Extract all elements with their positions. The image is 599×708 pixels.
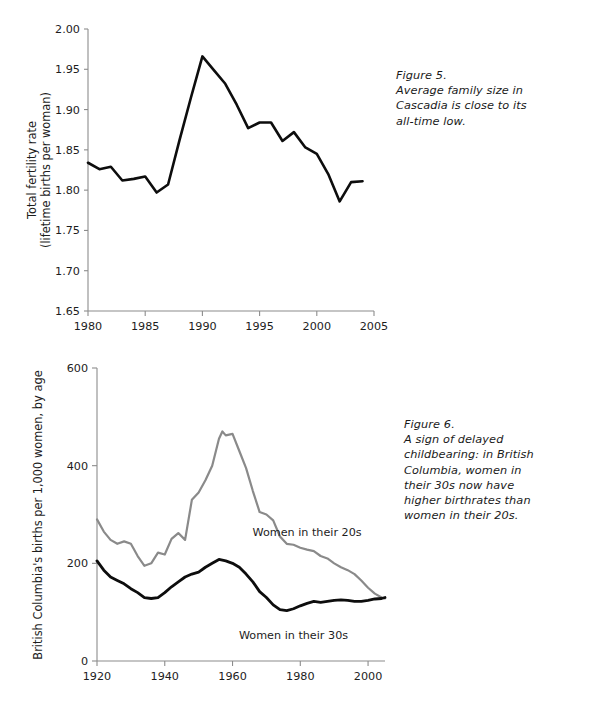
figure-6-caption: Figure 6. A sign of delayed childbearing… (404, 417, 594, 523)
x-tick-label: 1960 (218, 670, 246, 683)
figure-5-chart: 2.001.951.901.851.801.751.701.6519801985… (0, 0, 599, 350)
y-tick-label: 200 (67, 557, 88, 570)
caption-line: childbearing: in British (404, 447, 594, 462)
figure-6-chart: 600400200019201940196019802000British Co… (0, 350, 599, 708)
y-tick-label: 2.00 (55, 23, 80, 36)
y-tick-label: 600 (67, 362, 88, 375)
caption-line: Figure 5. (396, 68, 586, 83)
figure-5-caption: Figure 5. Average family size in Cascadi… (396, 68, 586, 129)
series-annotation-20s: Women in their 20s (253, 526, 362, 539)
y-tick-label: 1.85 (55, 144, 80, 157)
x-tick-label: 2000 (354, 670, 382, 683)
series-annotation-30s: Women in their 30s (239, 629, 348, 642)
x-tick-label: 1980 (286, 670, 314, 683)
x-tick-label: 2000 (303, 320, 331, 333)
x-tick-label: 1940 (151, 670, 179, 683)
caption-line: all-time low. (396, 114, 586, 129)
figure-6-block: 600400200019201940196019802000British Co… (0, 350, 599, 708)
y-tick-label: 1.65 (55, 305, 80, 318)
caption-line: higher birthrates than (404, 493, 594, 508)
x-tick-label: 1920 (83, 670, 111, 683)
x-tick-label: 1990 (188, 320, 216, 333)
y-axis-title: British Columbia's births per 1,000 wome… (31, 370, 45, 659)
x-tick-label: 1985 (131, 320, 159, 333)
x-tick-label: 2005 (360, 320, 388, 333)
y-tick-label: 1.75 (55, 224, 80, 237)
caption-line: Columbia, women in (404, 463, 594, 478)
x-tick-label: 1995 (245, 320, 273, 333)
y-axis-title-line1: Total fertility rate (25, 121, 39, 220)
caption-line: Cascadia is close to its (396, 98, 586, 113)
caption-line: A sign of delayed (404, 432, 594, 447)
caption-line: Figure 6. (404, 417, 594, 432)
series-line-women-in-their-20s (97, 431, 385, 598)
figure-5-block: 2.001.951.901.851.801.751.701.6519801985… (0, 0, 599, 350)
y-tick-label: 1.70 (55, 265, 80, 278)
y-tick-label: 400 (67, 460, 88, 473)
y-tick-label: 1.90 (55, 104, 80, 117)
y-axis-title-line2: (lifetime births per woman) (39, 92, 53, 248)
x-tick-label: 1980 (74, 320, 102, 333)
y-tick-label: 1.95 (55, 63, 80, 76)
series-line-total-fertility-rate (88, 56, 363, 201)
caption-line: women in their 20s. (404, 508, 594, 523)
y-tick-label: 0 (81, 655, 88, 668)
caption-line: Average family size in (396, 83, 586, 98)
y-tick-label: 1.80 (55, 184, 80, 197)
caption-line: their 30s now have (404, 478, 594, 493)
